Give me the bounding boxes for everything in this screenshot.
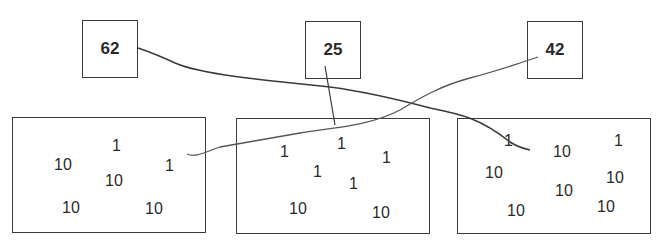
number: 10 [606,170,624,186]
number: 1 [112,138,121,154]
number: 1 [349,176,358,192]
number: 10 [553,144,571,160]
label-value: 42 [546,40,565,60]
number: 10 [507,203,525,219]
number: 10 [555,183,573,199]
label-value: 62 [101,39,120,59]
group-box-right: 1 10 1 10 10 10 10 10 [457,118,651,234]
number: 1 [165,158,174,174]
number: 1 [614,133,623,149]
number: 10 [372,205,390,221]
number: 10 [105,173,123,189]
group-box-middle: 1 1 1 1 1 10 10 [236,118,430,234]
number: 10 [145,201,163,217]
number: 10 [54,157,72,173]
label-box-62: 62 [82,20,138,78]
number: 1 [504,133,513,149]
label-box-42: 42 [527,21,583,79]
number: 10 [597,199,615,215]
number: 1 [280,144,289,160]
number: 10 [62,200,80,216]
label-box-25: 25 [305,21,361,79]
number: 10 [485,165,503,181]
number: 1 [337,136,346,152]
label-value: 25 [324,40,343,60]
number: 10 [289,201,307,217]
number: 1 [382,150,391,166]
group-box-left: 1 10 1 10 10 10 [12,117,206,233]
number: 1 [313,164,322,180]
